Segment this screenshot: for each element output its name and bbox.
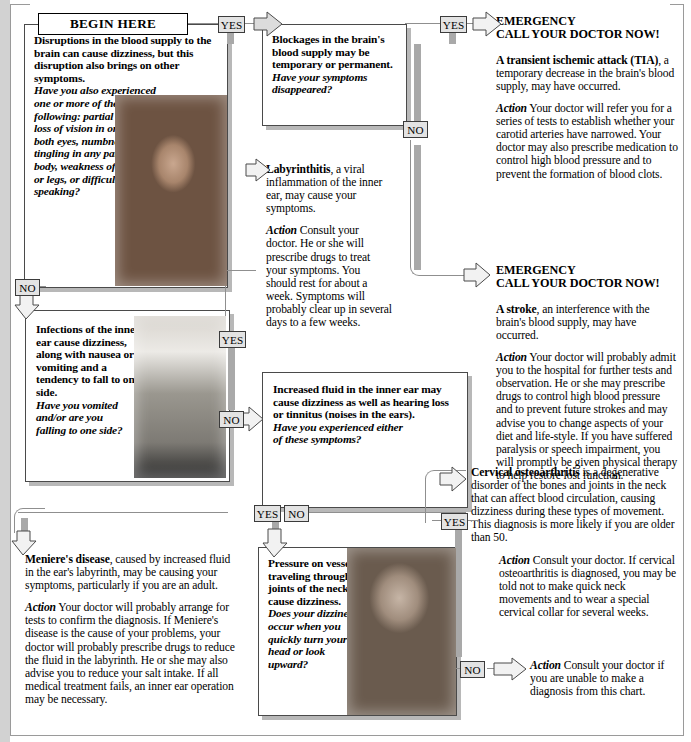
tia-diagnosis: A transient ischemic attack (TIA), a tem… (496, 54, 678, 93)
q3-statement: Infections of the inner ear cause dizzin… (36, 323, 140, 398)
meniere-body: Meniere's disease, caused by increased f… (25, 553, 235, 706)
stroke-diagnosis: A stroke, an interference with the brain… (496, 303, 678, 342)
pill-no-q4[interactable]: NO (284, 505, 309, 522)
line-q2-to-yes2 (405, 23, 440, 24)
arrow-to-fallback (493, 657, 527, 681)
begin-here-text: BEGIN HERE (70, 16, 156, 32)
tia-body: A transient ischemic attack (TIA), a tem… (496, 54, 678, 181)
cervical-action-label: Action (499, 554, 530, 567)
question-box-neck-pressure[interactable]: Pressure on vessels traveling through th… (258, 547, 457, 716)
labyrinthitis-action: Action Consult your doctor. He or she wi… (266, 224, 392, 329)
pill-yes-q2[interactable]: YES (440, 16, 467, 33)
question-text-inner-ear-infection: Infections of the inner ear cause dizzin… (36, 323, 146, 436)
stroke-action-text: Your doctor will probably admit you to t… (496, 351, 677, 482)
question-box-blockages[interactable]: Blockages in the brain's blood supply ma… (262, 24, 407, 126)
tia-emergency-line2: CALL YOUR DOCTOR NOW! (496, 28, 678, 41)
outcome-fallback-consult: Action Consult your doctor if you are un… (530, 659, 676, 698)
question-text-blockages: Blockages in the brain's blood supply ma… (272, 33, 398, 96)
question-box-blood-supply[interactable]: Disruptions in the blood supply to the b… (24, 24, 228, 288)
labyrinthitis-action-text: Consult your doctor. He or she will pres… (266, 224, 392, 329)
pill-yes-q5[interactable]: YES (441, 513, 468, 530)
stroke-diagnosis-bold: A stroke (496, 303, 537, 316)
cervical-diagnosis-p: Cervical osteoarthritis is a degenerativ… (471, 466, 679, 545)
begin-here-label: BEGIN HERE (38, 13, 188, 35)
tia-emergency-heading: EMERGENCY CALL YOUR DOCTOR NOW! (496, 15, 678, 42)
arrow-to-meniere-down (11, 530, 37, 556)
photo-woman-covering-eye (115, 95, 227, 286)
page-left-gutter (0, 0, 10, 742)
elbow-q2-no-to-stroke (410, 140, 471, 276)
stroke-body: A stroke, an interference with the brain… (496, 303, 678, 482)
labyrinthitis-diagnosis-bold: Labyrinthitis (266, 163, 330, 176)
stroke-action: Action Your doctor will probably admit y… (496, 351, 678, 482)
pill-no-q1[interactable]: NO (15, 279, 40, 296)
outcome-labyrinthitis: Labyrinthitis, a viral inflammation of t… (266, 163, 392, 329)
outcome-tia: EMERGENCY CALL YOUR DOCTOR NOW! A transi… (496, 15, 678, 181)
q2-statement: Blockages in the brain's blood supply ma… (272, 33, 393, 70)
arrow-begin-yes (253, 11, 283, 37)
stroke-emergency-line1: EMERGENCY (496, 264, 678, 277)
tia-action: Action Your doctor will refer you for a … (496, 102, 678, 181)
cervical-action-p: Action Consult your doctor. If cervical … (499, 554, 679, 619)
line-yes3-down (228, 345, 235, 410)
q3-question: Have you vomited and/or are you falling … (36, 399, 132, 437)
line-yes-cervical-down (455, 527, 462, 657)
photo-older-woman-looking-up (347, 548, 456, 715)
outcome-meniere-disease: Meniere's disease, caused by increased f… (25, 553, 235, 706)
meniere-diagnosis: Meniere's disease, caused by increased f… (25, 553, 235, 592)
tia-emergency-line1: EMERGENCY (496, 15, 678, 28)
tia-diagnosis-bold: A transient ischemic attack (TIA) (496, 54, 658, 67)
labyrinthitis-action-label: Action (266, 224, 297, 237)
q4-question: Have you experienced either of these sym… (273, 421, 403, 446)
stroke-emergency-line2: CALL YOUR DOCTOR NOW! (496, 277, 678, 290)
cervical-diagnosis-bold: Cervical osteoarthritis (471, 466, 580, 479)
pill-no-q3[interactable]: NO (219, 411, 244, 428)
fallback-action-label: Action (530, 659, 561, 672)
q5-question: Does your dizziness occur when you quick… (268, 607, 358, 670)
labyrinthitis-diagnosis: Labyrinthitis, a viral inflammation of t… (266, 163, 392, 215)
arrow-to-labyrinthitis (245, 158, 271, 182)
arrow-to-stroke-emergency (463, 262, 491, 288)
cropped-header-text (30, 0, 670, 9)
labyrinthitis-body: Labyrinthitis, a viral inflammation of t… (266, 163, 392, 329)
outcome-cervical-osteoarthritis: Cervical osteoarthritis is a degenerativ… (471, 466, 679, 619)
outcome-stroke: EMERGENCY CALL YOUR DOCTOR NOW! A stroke… (496, 264, 678, 482)
photo-man-off-balance (134, 316, 226, 478)
q1-statement: Disruptions in the blood supply to the b… (34, 34, 211, 84)
arrow-q2-yes-emergency (472, 11, 502, 37)
fallback-action: Action Consult your doctor if you are un… (530, 659, 676, 698)
q2-question: Have your symptoms disappeared? (272, 71, 398, 96)
cervical-action: Action Consult your doctor. If cervical … (499, 554, 679, 619)
meniere-action: Action Your doctor will probably arrange… (25, 601, 235, 706)
arrow-q4-no-down (262, 528, 288, 558)
line-q4-bottom-left (18, 512, 228, 513)
fallback-body: Action Consult your doctor if you are un… (530, 659, 676, 698)
pill-no-q2[interactable]: NO (403, 121, 428, 138)
cervical-diagnosis: Cervical osteoarthritis is a degenerativ… (471, 466, 679, 545)
line-begin-to-yes1 (186, 23, 218, 24)
tia-action-label: Action (496, 102, 527, 115)
arrow-to-cervical (439, 466, 467, 492)
meniere-action-text: Your doctor will probably arrange for te… (25, 601, 235, 706)
question-box-inner-ear-infection[interactable]: Infections of the inner ear cause dizzin… (25, 310, 230, 482)
pill-yes-q4[interactable]: YES (254, 505, 281, 522)
question-text-increased-fluid: Increased fluid in the inner ear may cau… (273, 383, 449, 446)
line-q2-no-vertical (414, 44, 421, 129)
stroke-emergency-heading: EMERGENCY CALL YOUR DOCTOR NOW! (496, 264, 678, 291)
q4-statement: Increased fluid in the inner ear may cau… (273, 383, 449, 420)
stroke-action-label: Action (496, 351, 527, 364)
meniere-action-label: Action (25, 601, 56, 614)
pill-yes-q3[interactable]: YES (219, 331, 246, 348)
meniere-diagnosis-bold: Meniere's disease (25, 553, 110, 566)
flowchart-page: YES YES NO NO YES NO YES NO YES NO BEGIN… (0, 0, 691, 742)
pill-yes-q1[interactable]: YES (218, 16, 245, 33)
line-cervical-arrow-stem (425, 478, 426, 522)
pill-no-q5[interactable]: NO (460, 661, 485, 678)
